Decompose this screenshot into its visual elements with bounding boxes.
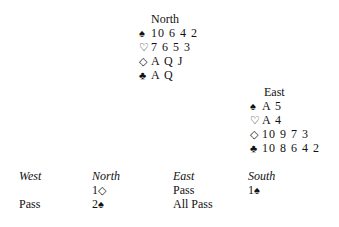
north-hearts-row: ♡7 6 5 3 bbox=[139, 40, 198, 54]
diamond-icon: ◇ bbox=[139, 54, 151, 68]
header-east: East bbox=[173, 169, 194, 183]
east-hearts-row: ♡A 4 bbox=[250, 113, 320, 127]
north-clubs: A Q bbox=[151, 68, 174, 82]
bid-west: Pass bbox=[19, 197, 40, 211]
east-spades-row: ♠A 5 bbox=[250, 99, 320, 113]
spade-icon: ♠ bbox=[139, 26, 151, 40]
spade-icon: ♠ bbox=[254, 184, 260, 196]
north-hand: North ♠10 6 4 2 ♡7 6 5 3 ◇A Q J ♣A Q bbox=[139, 12, 198, 82]
north-title: North bbox=[139, 12, 198, 26]
bid-north: 2♠ bbox=[92, 197, 104, 211]
header-north: North bbox=[92, 169, 120, 183]
diamond-icon: ◇ bbox=[98, 184, 106, 196]
east-hearts: A 4 bbox=[262, 113, 282, 127]
north-hearts: 7 6 5 3 bbox=[151, 40, 191, 54]
auction-row: Pass 2♠ All Pass bbox=[0, 197, 339, 211]
header-south: South bbox=[248, 169, 275, 183]
bid-east: All Pass bbox=[173, 197, 213, 211]
spade-icon: ♠ bbox=[250, 99, 262, 113]
north-spades: 10 6 4 2 bbox=[151, 26, 198, 40]
auction-row: 1◇ Pass 1♠ bbox=[0, 183, 339, 197]
east-spades: A 5 bbox=[262, 99, 282, 113]
bid-east: Pass bbox=[173, 183, 194, 197]
heart-icon: ♡ bbox=[250, 113, 262, 127]
bid-north: 1◇ bbox=[92, 183, 106, 197]
east-hand: East ♠A 5 ♡A 4 ◇10 9 7 3 ♣10 8 6 4 2 bbox=[250, 85, 320, 155]
east-diamonds: 10 9 7 3 bbox=[262, 127, 309, 141]
north-spades-row: ♠10 6 4 2 bbox=[139, 26, 198, 40]
north-diamonds: A Q J bbox=[151, 54, 183, 68]
club-icon: ♣ bbox=[250, 141, 262, 155]
east-clubs: 10 8 6 4 2 bbox=[262, 141, 320, 155]
heart-icon: ♡ bbox=[139, 40, 151, 54]
east-clubs-row: ♣10 8 6 4 2 bbox=[250, 141, 320, 155]
auction-header-row: West North East South bbox=[0, 169, 339, 183]
north-diamonds-row: ◇A Q J bbox=[139, 54, 198, 68]
east-title: East bbox=[250, 85, 320, 99]
north-clubs-row: ♣A Q bbox=[139, 68, 198, 82]
header-west: West bbox=[19, 169, 41, 183]
east-diamonds-row: ◇10 9 7 3 bbox=[250, 127, 320, 141]
bid-south: 1♠ bbox=[248, 183, 260, 197]
spade-icon: ♠ bbox=[98, 198, 104, 210]
club-icon: ♣ bbox=[139, 68, 151, 82]
diamond-icon: ◇ bbox=[250, 127, 262, 141]
